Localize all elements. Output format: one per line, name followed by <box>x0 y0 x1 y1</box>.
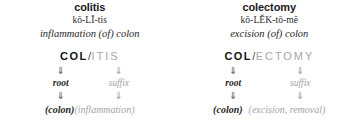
root-label: root <box>53 77 69 90</box>
root-meaning: (colon) <box>213 103 242 117</box>
arrow-cell-suffix: ⇓ <box>90 90 148 102</box>
derivation-grid: ⇓ ⇓ root suffix ⇓ ⇓ <box>180 65 359 117</box>
suffix-meaning: (inflammation) <box>74 103 134 117</box>
down-arrow-icon: ⇓ <box>296 90 304 102</box>
arrow-cell-root: ⇓ <box>32 90 90 102</box>
down-arrow-icon: ⇓ <box>229 65 237 77</box>
down-arrow-icon: ⇓ <box>229 90 237 102</box>
arrow-row-upper: ⇓ ⇓ <box>180 65 359 77</box>
down-arrow-icon: ⇓ <box>57 65 65 77</box>
derivation-grid: ⇓ ⇓ root suffix ⇓ ⇓ <box>0 65 180 117</box>
meaning-row: (colon) (inflammation) <box>45 103 134 117</box>
pronunciation: kō-LĪ-tis <box>72 14 107 27</box>
root-label: root <box>225 77 241 90</box>
down-arrow-icon: ⇓ <box>296 65 304 77</box>
term-breakdown: COL / ECTOMY <box>224 49 314 63</box>
down-arrow-icon: ⇓ <box>57 90 65 102</box>
arrow-row-lower: ⇓ ⇓ <box>0 90 180 102</box>
meaning-row: (colon) (excision, removal) <box>213 103 325 117</box>
word-entry-colectomy: colectomy kō-LĔK-tō-mē excision (of) col… <box>180 0 359 133</box>
part-cell-suffix: suffix <box>90 77 148 90</box>
definition: inflammation (of) colon <box>40 27 140 40</box>
root-meaning: (colon) <box>45 103 74 117</box>
arrow-cell-root: ⇓ <box>32 65 90 77</box>
part-label-row: root suffix <box>0 77 180 90</box>
part-cell-root: root <box>32 77 90 90</box>
headword: colectomy <box>242 1 296 14</box>
arrow-cell-root: ⇓ <box>202 90 264 102</box>
part-label-row: root suffix <box>180 77 359 90</box>
term-breakdown: COL / ITIS <box>60 49 119 63</box>
down-arrow-icon: ⇓ <box>115 65 123 77</box>
term-root: COL <box>60 49 87 63</box>
term-root: COL <box>224 49 251 63</box>
arrow-row-lower: ⇓ ⇓ <box>180 90 359 102</box>
suffix-label: suffix <box>108 77 129 90</box>
down-arrow-icon: ⇓ <box>115 90 123 102</box>
term-suffix: ITIS <box>92 49 120 63</box>
part-cell-suffix: suffix <box>264 77 336 90</box>
suffix-meaning: (excision, removal) <box>249 103 326 117</box>
arrow-cell-root: ⇓ <box>202 65 264 77</box>
word-entry-colitis: colitis kō-LĪ-tis inflammation (of) colo… <box>0 0 180 133</box>
arrow-cell-suffix: ⇓ <box>264 90 336 102</box>
arrow-row-upper: ⇓ ⇓ <box>0 65 180 77</box>
definition: excision (of) colon <box>230 27 308 40</box>
term-suffix: ECTOMY <box>256 49 314 63</box>
pronunciation: kō-LĔK-tō-mē <box>240 14 298 27</box>
headword: colitis <box>74 1 105 14</box>
suffix-label: suffix <box>290 77 311 90</box>
word-breakdown-figure: colitis kō-LĪ-tis inflammation (of) colo… <box>0 0 359 133</box>
arrow-cell-suffix: ⇓ <box>90 65 148 77</box>
arrow-cell-suffix: ⇓ <box>264 65 336 77</box>
part-cell-root: root <box>202 77 264 90</box>
